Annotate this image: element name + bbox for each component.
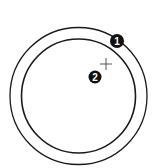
callout-marker-2-label: 2 [92, 72, 98, 83]
inner-circle [22, 39, 136, 153]
callout-marker-1: 1 [110, 34, 124, 48]
callout-marker-2: 2 [89, 71, 102, 84]
callout-marker-1-label: 1 [114, 36, 120, 47]
crosshair-icon [100, 58, 112, 70]
outer-circle [10, 28, 147, 165]
concentric-circles-diagram: 1 2 [0, 0, 165, 168]
